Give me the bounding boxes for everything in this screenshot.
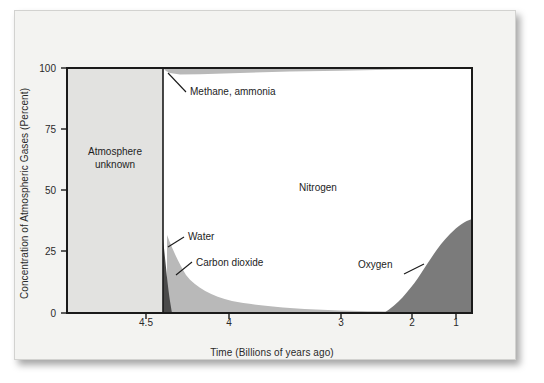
y-tick-label-50: 50 [22, 185, 56, 196]
x-tick-label-4: 4 [226, 317, 232, 328]
x-tick-label-4-5: 4.5 [139, 317, 153, 328]
x-tick-label-2: 2 [409, 317, 415, 328]
y-tick-label-0: 0 [22, 308, 56, 319]
methane-ammonia-label: Methane, ammonia [190, 86, 276, 97]
water-label: Water [188, 231, 214, 242]
nitrogen-label: Nitrogen [299, 182, 337, 193]
oxygen-label: Oxygen [358, 259, 392, 270]
y-tick-label-100: 100 [22, 63, 56, 74]
x-tick-label-3: 3 [338, 317, 344, 328]
x-tick-label-1: 1 [453, 317, 459, 328]
unknown-region-label-line2: unknown [95, 159, 135, 170]
figure-root: Concentration of Atmospheric Gases (Perc… [0, 0, 544, 383]
chart-canvas [0, 0, 544, 383]
x-axis-title: Time (Billions of years ago) [0, 347, 544, 358]
unknown-region-label-line1: Atmosphere [88, 146, 142, 157]
carbon-dioxide-label: Carbon dioxide [196, 257, 263, 268]
y-tick-label-25: 25 [22, 246, 56, 257]
y-tick-label-75: 75 [22, 124, 56, 135]
unknown-region-area [67, 68, 163, 313]
